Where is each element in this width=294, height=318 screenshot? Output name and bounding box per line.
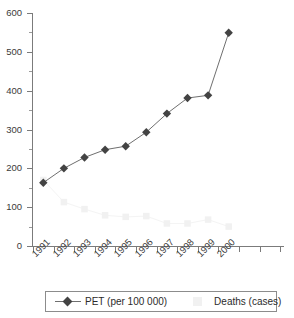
legend-label-deaths: Deaths (cases) bbox=[214, 297, 281, 307]
data-point-marker bbox=[164, 220, 171, 227]
data-point-marker bbox=[204, 91, 212, 99]
legend-label-pet: PET (per 100 000) bbox=[85, 297, 167, 307]
data-point-marker bbox=[183, 94, 191, 102]
data-point-marker bbox=[101, 145, 109, 153]
diamond-marker-icon bbox=[55, 297, 81, 307]
data-point-marker bbox=[60, 164, 68, 172]
data-point-marker bbox=[225, 223, 232, 230]
chart-legend: PET (per 100 000) Deaths (cases) bbox=[45, 291, 277, 312]
square-marker-icon bbox=[193, 297, 202, 306]
data-point-marker bbox=[184, 220, 191, 227]
series-pet bbox=[39, 29, 233, 187]
data-point-marker bbox=[122, 214, 129, 221]
data-point-marker bbox=[122, 142, 130, 150]
data-point-marker bbox=[225, 29, 233, 37]
data-point-marker bbox=[205, 216, 212, 223]
data-point-marker bbox=[102, 212, 109, 219]
chart-series-layer bbox=[0, 0, 294, 318]
data-point-marker bbox=[80, 153, 88, 161]
legend-item-pet[interactable]: PET (per 100 000) bbox=[55, 297, 167, 307]
legend-row: PET (per 100 000) Deaths (cases) bbox=[46, 292, 276, 311]
data-point-marker bbox=[61, 199, 68, 206]
data-point-marker bbox=[81, 206, 88, 213]
data-point-marker bbox=[143, 213, 150, 220]
series-line-pet bbox=[43, 33, 228, 183]
series-line-deaths bbox=[43, 180, 228, 227]
chart-figure: 0100200300400500600 19911992199319941995… bbox=[0, 0, 294, 318]
legend-item-deaths[interactable]: Deaths (cases) bbox=[193, 297, 281, 307]
